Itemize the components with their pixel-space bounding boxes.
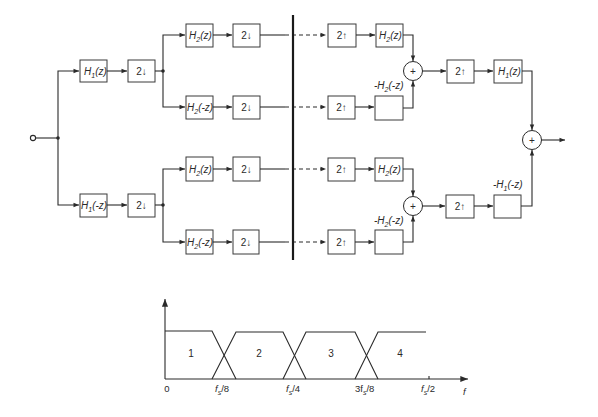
svg-text:H2(z): H2(z) (379, 30, 402, 43)
svg-text:+: + (410, 66, 416, 77)
x-tick-label: fs/8 (215, 383, 229, 396)
svg-text:2↓: 2↓ (241, 237, 252, 248)
svg-text:-H2(-z): -H2(-z) (374, 80, 403, 93)
svg-text:H1(z): H1(z) (498, 66, 521, 79)
input-terminal (30, 135, 35, 140)
block-diagram: H1(z) 2↓ H2(z) 2↓ H2(-z) 2↓ H1(-z) (30, 15, 565, 260)
svg-text:H2(z): H2(z) (189, 164, 212, 177)
svg-text:-H1(-z): -H1(-z) (493, 179, 522, 192)
analysis-upper: H1(z) 2↓ H2(z) 2↓ H2(-z) 2↓ (80, 24, 285, 119)
x-tick-label: 3fs/8 (355, 383, 374, 396)
svg-text:H2(z): H2(z) (189, 30, 212, 43)
band-label: 3 (328, 348, 334, 359)
svg-text:2↓: 2↓ (241, 164, 252, 175)
svg-text:H1(z): H1(z) (84, 66, 107, 79)
svg-text:+: + (529, 135, 535, 146)
svg-text:H2(z): H2(z) (378, 164, 401, 177)
svg-text:H2(-z): H2(-z) (187, 237, 213, 250)
x-tick-label: fs/2 (421, 383, 435, 396)
svg-text:2↑: 2↑ (455, 201, 466, 212)
x-tick-label: fs/4 (286, 383, 300, 396)
x-axis-label: f (463, 386, 467, 397)
filter-block (375, 230, 403, 254)
channel-links (285, 35, 326, 242)
frequency-band-chart: 1 2 3 4 0 fs/8 fs/4 3fs/8 fs/2 f (164, 299, 468, 397)
svg-text:2↓: 2↓ (241, 102, 252, 113)
svg-text:2↓: 2↓ (136, 66, 147, 77)
x-tick-label: 0 (164, 383, 169, 394)
svg-text:2↑: 2↑ (337, 30, 348, 41)
filter-block (494, 195, 521, 218)
synthesis-lower: 2↑ H2(z) 2↑ -H2(-z) + 2↑ -H1(-z) (328, 150, 532, 254)
band-label: 2 (256, 348, 262, 359)
svg-text:-H2(-z): -H2(-z) (374, 215, 403, 228)
band-1-response (165, 331, 236, 379)
svg-text:2↑: 2↑ (336, 102, 347, 113)
band-label: 1 (188, 348, 194, 359)
band-4-response (355, 332, 426, 379)
filter-block (375, 96, 403, 120)
svg-text:2↑: 2↑ (336, 237, 347, 248)
band-label: 4 (397, 348, 403, 359)
synthesis-upper: 2↑ H2(z) 2↑ -H2(-z) + 2↑ H1(z) (328, 24, 532, 130)
svg-text:2↓: 2↓ (136, 200, 147, 211)
svg-text:H2(-z): H2(-z) (187, 102, 213, 115)
svg-text:+: + (410, 201, 416, 212)
svg-text:H1(-z): H1(-z) (81, 200, 107, 213)
svg-text:2↑: 2↑ (455, 66, 466, 77)
filter-bank-figure: H1(z) 2↓ H2(z) 2↓ H2(-z) 2↓ H1(-z) (0, 0, 598, 417)
svg-text:2↓: 2↓ (241, 30, 252, 41)
analysis-lower: H1(-z) 2↓ H2(z) 2↓ H2(-z) 2↓ (80, 157, 285, 254)
svg-text:2↑: 2↑ (336, 164, 347, 175)
